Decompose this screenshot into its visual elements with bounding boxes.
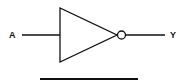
- buffer-triangle: [60, 8, 117, 62]
- underline-bar: [40, 78, 138, 80]
- inversion-bubble: [118, 31, 126, 39]
- input-label: A: [9, 31, 16, 40]
- output-label: Y: [170, 31, 176, 40]
- not-gate-diagram: A Y: [0, 0, 184, 81]
- not-gate-symbol: [0, 0, 184, 81]
